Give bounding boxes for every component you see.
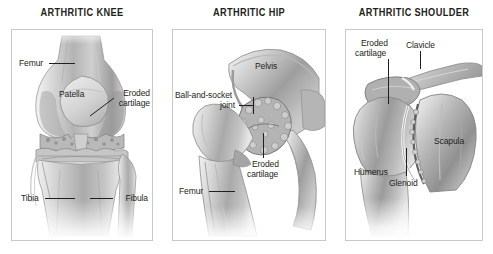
panel-knee: Femur Patella Eroded cartilage Tibia Fib… <box>11 29 153 241</box>
knee-leader-eroded-cartilage <box>90 96 114 97</box>
panel-title-shoulder: ARTHRITIC SHOULDER <box>351 7 478 18</box>
hip-leader-eroded-cartilage <box>263 133 264 158</box>
hip-label-eroded-cartilage-line1: Eroded <box>252 159 279 169</box>
hip-label-femur: Femur <box>179 186 203 196</box>
hip-leader-ball-and-socket <box>239 105 253 106</box>
shoulder-label-scapula: Scapula <box>434 136 464 146</box>
knee-label-tibia: Tibia <box>21 193 39 203</box>
knee-label-fibula: Fibula <box>115 193 148 203</box>
shoulder-label-eroded-cartilage-line2: cartilage <box>355 48 386 58</box>
knee-label-patella: Patella <box>59 89 84 99</box>
hip-label-pelvis: Pelvis <box>255 61 277 71</box>
hip-label-ball-and-socket-line2: joint <box>175 100 235 110</box>
hip-leader-ball-and-socket-bracket <box>253 97 254 114</box>
hip-leader-femur <box>209 191 235 192</box>
panel-title-knee: ARTHRITIC KNEE <box>17 7 148 18</box>
shoulder-label-humerus: Humerus <box>354 167 388 177</box>
knee-leader-tibia <box>45 198 75 199</box>
shoulder-label-glenoid: Glenoid <box>389 178 418 188</box>
shoulder-label-eroded-cartilage-line1: Eroded <box>361 38 388 48</box>
arthritic-joints-figure: ARTHRITIC KNEE ARTHRITIC HIP ARTHRITIC S… <box>0 0 493 254</box>
knee-label-femur: Femur <box>19 58 43 68</box>
shoulder-leader-eroded-cartilage <box>388 59 389 104</box>
panel-shoulder: Eroded cartilage Clavicle Scapula Humeru… <box>345 29 483 241</box>
hip-illustration <box>173 30 325 240</box>
panel-title-hip: ARTHRITIC HIP <box>178 7 320 18</box>
hip-label-ball-and-socket-line1: Ball-and-socket <box>175 90 232 100</box>
panel-hip: Pelvis Ball-and-socket joint Eroded cart… <box>172 29 326 241</box>
shoulder-leader-glenoid <box>406 148 407 176</box>
shoulder-label-clavicle: Clavicle <box>406 40 435 50</box>
hip-label-eroded-cartilage-line2: cartilage <box>247 169 278 179</box>
knee-leader-femur <box>49 63 75 64</box>
shoulder-illustration <box>346 30 482 240</box>
knee-leader-fibula <box>90 198 113 199</box>
shoulder-leader-clavicle <box>420 51 421 69</box>
knee-label-eroded-cartilage-line1: Eroded <box>112 88 150 98</box>
